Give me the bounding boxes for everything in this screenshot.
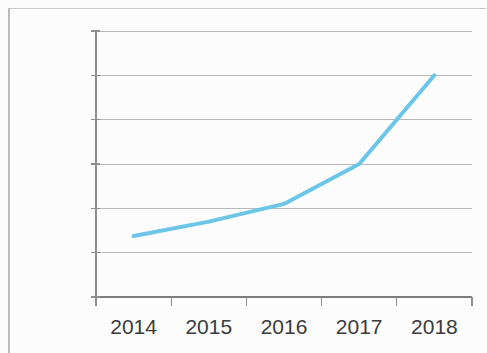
x-axis-label-2018: 2018: [394, 316, 474, 337]
x-axis-label-2016: 2016: [244, 316, 324, 337]
line-chart-figure: 12,00010,0008 0006 0004 0002 0000 201420…: [0, 0, 487, 353]
x-axis-label-2017: 2017: [319, 316, 399, 337]
x-axis-label-group: 20142015201620172018: [0, 0, 487, 353]
x-axis-label-2015: 2015: [169, 316, 249, 337]
x-axis-label-2014: 2014: [94, 316, 174, 337]
